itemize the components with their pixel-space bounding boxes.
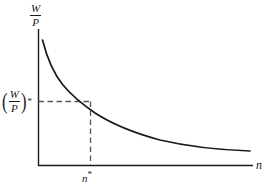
y-tick-fraction: W P	[9, 89, 20, 114]
y-axis-title-denominator: P	[31, 17, 40, 29]
y-axis-title-numerator: W	[30, 3, 41, 15]
labor-demand-curve	[43, 40, 251, 151]
x-axis-title: n	[256, 159, 262, 171]
y-tick-asterisk-glyph: *	[28, 97, 33, 106]
y-tick-denominator: P	[10, 103, 19, 115]
y-axis-title: W P	[30, 3, 41, 28]
y-tick-numerator: W	[9, 89, 20, 101]
open-paren-glyph: (	[2, 90, 8, 113]
y-axis-equilibrium-tick-label: ( W P ) *	[1, 89, 32, 114]
x-tick-asterisk-glyph: *	[88, 170, 93, 179]
labor-demand-plot	[0, 0, 269, 188]
x-axis-equilibrium-tick-label: n*	[82, 170, 92, 184]
close-paren-glyph: )	[21, 90, 27, 113]
figure-canvas: W P ( W P ) * n* n	[0, 0, 269, 188]
y-axis-title-fraction: W P	[30, 3, 41, 28]
